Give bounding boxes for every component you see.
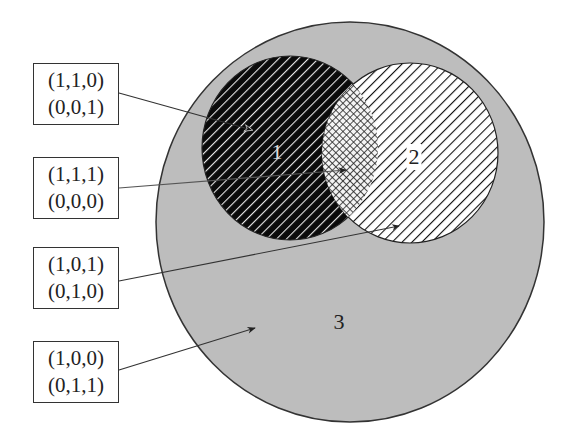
region-3-label: 3 [334,309,345,335]
region-2-label: 2 [407,144,422,170]
callout-1-line2: (0,0,1) [48,94,104,121]
callout-4-line1: (1,0,0) [48,345,104,372]
callout-box-1: (1,1,0) (0,0,1) [33,63,119,125]
callout-2-line2: (0,0,0) [48,188,104,215]
callout-2-line1: (1,1,1) [48,161,104,188]
callout-3-line1: (1,0,1) [48,251,104,278]
region-1-label: 1 [272,139,283,165]
callout-3-line2: (0,1,0) [48,278,104,305]
callout-box-3: (1,0,1) (0,1,0) [33,247,119,309]
callout-box-2: (1,1,1) (0,0,0) [33,157,119,219]
callout-box-4: (1,0,0) (0,1,1) [33,341,119,403]
callout-4-line2: (0,1,1) [48,372,104,399]
callout-1-line1: (1,1,0) [48,67,104,94]
